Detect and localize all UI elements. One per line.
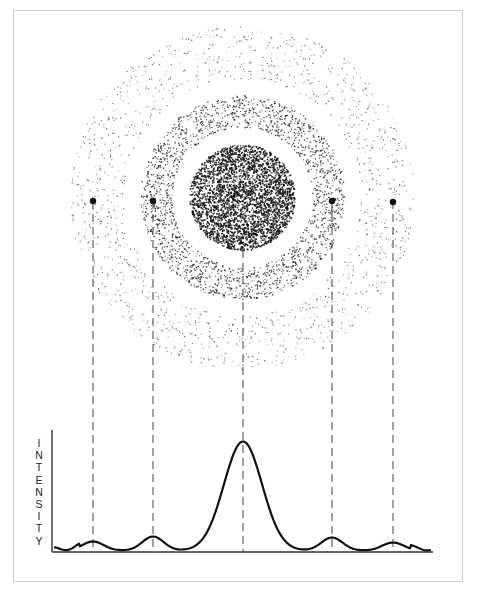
intensity-curve — [55, 442, 430, 551]
y-axis-letter: N — [33, 486, 45, 498]
marker-right-inner — [329, 198, 335, 204]
y-axis-letter: T — [33, 461, 45, 473]
y-axis-letter: I — [33, 510, 45, 522]
dashed-guide-lines — [93, 201, 393, 552]
y-axis-label: INTENSITY — [33, 437, 45, 547]
y-axis-letter: N — [33, 449, 45, 461]
marker-right-outer — [390, 199, 396, 205]
marker-left-inner — [150, 198, 156, 204]
diffraction-diagram — [0, 0, 477, 592]
y-axis-letter: I — [33, 437, 45, 449]
y-axis-letter: E — [33, 474, 45, 486]
y-axis-letter: S — [33, 498, 45, 510]
marker-left-outer — [90, 198, 96, 204]
y-axis-letter: Y — [33, 535, 45, 547]
y-axis-letter: T — [33, 522, 45, 534]
